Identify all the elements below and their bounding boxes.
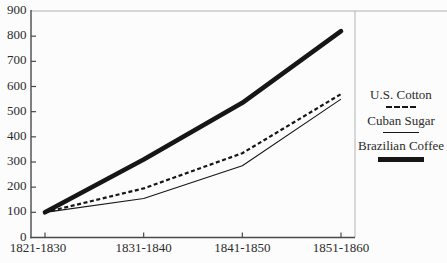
legend-label-brazilian-coffee: Brazilian Coffee <box>356 138 446 153</box>
x-axis-tick-label: 1851-1860 <box>313 240 369 255</box>
y-axis-tick-label: 300 <box>7 153 27 168</box>
series-line-u-s-cotton <box>45 94 341 212</box>
legend: U.S. Cotton Cuban Sugar Brazilian Coffee <box>356 87 446 162</box>
y-axis-tick-label: 600 <box>7 78 27 93</box>
legend-item-cuban-sugar: Cuban Sugar <box>356 113 446 133</box>
y-axis-tick-label: 200 <box>7 178 27 193</box>
thick-line-sample <box>378 157 424 162</box>
y-axis-tick-label: 700 <box>7 52 27 67</box>
legend-item-brazilian-coffee: Brazilian Coffee <box>356 138 446 162</box>
legend-item-us-cotton: U.S. Cotton <box>356 87 446 108</box>
dashed-line-sample <box>386 106 416 108</box>
y-axis-tick-label: 500 <box>7 103 27 118</box>
thin-line-sample <box>383 132 419 133</box>
x-axis-tick-label: 1841-1850 <box>214 240 270 255</box>
y-axis-tick-label: 400 <box>7 128 27 143</box>
legend-label-us-cotton: U.S. Cotton <box>356 87 446 102</box>
y-axis-tick-label: 800 <box>7 27 27 42</box>
commodity-export-line-chart: 01002003004005006007008009001821-1830183… <box>0 0 447 263</box>
series-line-brazilian-coffee <box>45 31 341 212</box>
y-axis-tick-label: 900 <box>7 2 27 17</box>
y-axis-tick-label: 100 <box>7 203 27 218</box>
x-axis-tick-label: 1831-1840 <box>115 240 171 255</box>
x-axis-tick-label: 1821-1830 <box>10 240 66 255</box>
legend-label-cuban-sugar: Cuban Sugar <box>356 113 446 128</box>
series-line-cuban-sugar <box>45 99 341 212</box>
